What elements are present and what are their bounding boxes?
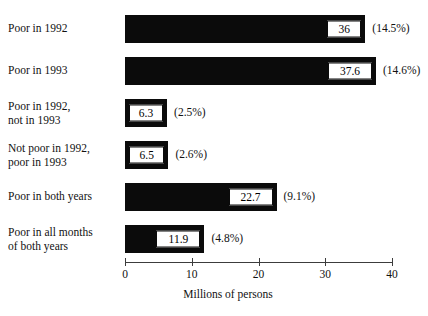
category-label: Poor in 1993 — [8, 64, 120, 78]
bar-percent-label: (9.1%) — [284, 191, 316, 203]
x-axis-tick — [392, 258, 393, 266]
x-axis-tick — [192, 258, 193, 266]
bar-value-label: 6.5 — [129, 147, 164, 164]
chart-row: Not poor in 1992, poor in 19936.5(2.6%) — [0, 134, 428, 176]
x-axis-tick-label: 30 — [320, 269, 332, 281]
x-axis: 010203040 Millions of persons — [0, 258, 428, 316]
x-axis-tick-label: 0 — [122, 269, 128, 281]
bar-percent-label: (14.6%) — [383, 65, 420, 77]
x-axis-tick — [125, 258, 126, 266]
category-label: Not poor in 1992, poor in 1993 — [8, 142, 120, 169]
bar-chart: Poor in 199236(14.5%)Poor in 199337.6(14… — [0, 0, 428, 316]
chart-row: Poor in 199236(14.5%) — [0, 8, 428, 50]
bar-percent-label: (4.8%) — [211, 233, 243, 245]
bar-value-label: 22.7 — [229, 189, 273, 206]
category-label: Poor in both years — [8, 190, 120, 204]
x-axis-title: Millions of persons — [0, 288, 428, 300]
bar-value-label: 37.6 — [328, 63, 372, 80]
x-axis-tick — [325, 258, 326, 266]
x-axis-tick — [259, 258, 260, 266]
chart-row: Poor in 199337.6(14.6%) — [0, 50, 428, 92]
bar-value-label: 11.9 — [156, 231, 200, 248]
bar-percent-label: (14.5%) — [372, 23, 409, 35]
x-axis-tick-label: 40 — [386, 269, 398, 281]
category-label: Poor in 1992, not in 1993 — [8, 100, 120, 127]
bar-value-label: 6.3 — [129, 105, 163, 122]
category-label: Poor in all months of both years — [8, 226, 120, 253]
bar-percent-label: (2.5%) — [174, 107, 206, 119]
category-label: Poor in 1992 — [8, 22, 120, 36]
chart-row: Poor in both years22.7(9.1%) — [0, 176, 428, 218]
bar-value-label: 36 — [327, 21, 361, 38]
chart-row: Poor in all months of both years11.9(4.8… — [0, 218, 428, 260]
x-axis-tick-label: 10 — [186, 269, 198, 281]
bar-percent-label: (2.6%) — [175, 149, 207, 161]
x-axis-tick-label: 20 — [253, 269, 265, 281]
chart-row: Poor in 1992, not in 19936.3(2.5%) — [0, 92, 428, 134]
